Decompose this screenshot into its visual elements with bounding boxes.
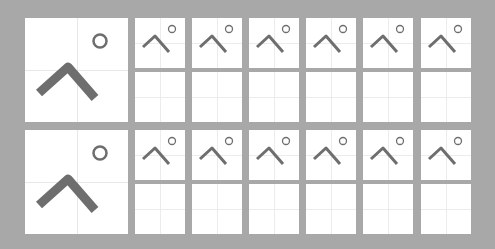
pe-character-glyph bbox=[135, 18, 185, 68]
guide-line-vertical bbox=[160, 72, 161, 122]
guide-line-vertical bbox=[388, 184, 389, 234]
pe-character-glyph bbox=[25, 18, 128, 122]
pe-character-glyph bbox=[421, 18, 471, 68]
trace-cell[interactable] bbox=[421, 130, 471, 180]
trace-cell[interactable] bbox=[192, 130, 242, 180]
trace-cell[interactable] bbox=[249, 130, 299, 180]
practice-column bbox=[135, 130, 185, 234]
trace-cell[interactable] bbox=[192, 18, 242, 68]
pe-character-glyph bbox=[249, 130, 299, 180]
guide-line-vertical bbox=[217, 72, 218, 122]
trace-cell[interactable] bbox=[421, 18, 471, 68]
guide-line-vertical bbox=[446, 184, 447, 234]
blank-practice-cell[interactable] bbox=[306, 72, 356, 122]
practice-column bbox=[363, 18, 413, 122]
blank-practice-cell[interactable] bbox=[306, 184, 356, 234]
blank-practice-cell[interactable] bbox=[363, 184, 413, 234]
pe-character-glyph bbox=[306, 130, 356, 180]
pe-character-glyph bbox=[25, 130, 128, 234]
trace-cell[interactable] bbox=[249, 18, 299, 68]
blank-practice-cell[interactable] bbox=[192, 184, 242, 234]
guide-line-vertical bbox=[331, 72, 332, 122]
pe-character-glyph bbox=[249, 18, 299, 68]
practice-column bbox=[421, 130, 471, 234]
practice-column bbox=[306, 18, 356, 122]
pe-character-glyph bbox=[135, 130, 185, 180]
guide-line-vertical bbox=[274, 184, 275, 234]
practice-column bbox=[363, 130, 413, 234]
guide-line-vertical bbox=[160, 184, 161, 234]
blank-practice-cell[interactable] bbox=[249, 184, 299, 234]
pe-character-glyph bbox=[421, 130, 471, 180]
trace-cell[interactable] bbox=[363, 18, 413, 68]
blank-practice-cell[interactable] bbox=[192, 72, 242, 122]
trace-cell[interactable] bbox=[135, 130, 185, 180]
practice-column bbox=[306, 130, 356, 234]
guide-line-vertical bbox=[274, 72, 275, 122]
blank-practice-cell[interactable] bbox=[135, 184, 185, 234]
practice-column bbox=[192, 18, 242, 122]
practice-column bbox=[249, 18, 299, 122]
guide-line-vertical bbox=[331, 184, 332, 234]
pe-character-glyph bbox=[306, 18, 356, 68]
guide-line-vertical bbox=[388, 72, 389, 122]
trace-cell[interactable] bbox=[135, 18, 185, 68]
trace-cell[interactable] bbox=[306, 130, 356, 180]
trace-cell[interactable] bbox=[363, 130, 413, 180]
blank-practice-cell[interactable] bbox=[135, 72, 185, 122]
blank-practice-cell[interactable] bbox=[249, 72, 299, 122]
practice-column bbox=[421, 18, 471, 122]
pe-character-glyph bbox=[192, 130, 242, 180]
pe-character-glyph bbox=[192, 18, 242, 68]
practice-column bbox=[192, 130, 242, 234]
guide-line-vertical bbox=[446, 72, 447, 122]
blank-practice-cell[interactable] bbox=[363, 72, 413, 122]
guide-line-vertical bbox=[217, 184, 218, 234]
pe-character-glyph bbox=[363, 130, 413, 180]
model-character-box bbox=[25, 130, 128, 234]
model-character-box bbox=[25, 18, 128, 122]
pe-character-glyph bbox=[363, 18, 413, 68]
blank-practice-cell[interactable] bbox=[421, 184, 471, 234]
practice-column bbox=[135, 18, 185, 122]
blank-practice-cell[interactable] bbox=[421, 72, 471, 122]
practice-column bbox=[249, 130, 299, 234]
trace-cell[interactable] bbox=[306, 18, 356, 68]
